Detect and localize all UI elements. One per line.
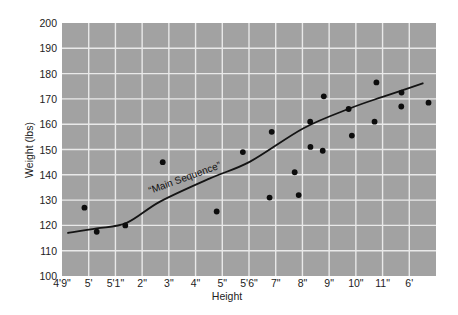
data-point [426,100,432,106]
data-point [240,149,246,155]
x-tick-label: 5'1" [107,277,125,289]
y-tick-label: 190 [39,42,57,54]
x-tick-label: 5" [217,277,227,289]
data-point [214,209,220,215]
x-tick-label: 10" [348,277,364,289]
data-point [374,80,380,86]
y-tick-label: 140 [39,169,57,181]
y-tick-label: 160 [39,118,57,130]
x-tick-label: 5'6" [240,277,258,289]
x-tick-label: 7" [271,277,281,289]
data-point [269,129,275,135]
y-tick-label: 200 [39,17,57,29]
x-tick-label: 4'9" [53,277,71,289]
data-point [372,119,378,125]
y-tick-label: 120 [39,219,57,231]
scatter-chart: 100110120130140150160170180190200 4'9"5'… [0,0,458,315]
data-point [308,144,314,150]
data-point [349,133,355,139]
x-axis-ticks: 4'9"5'5'1"2"3"4"5"5'6"7"8"9"10"11"6' [53,277,413,289]
data-point [320,148,326,154]
data-point [292,169,298,175]
y-tick-label: 110 [40,245,57,257]
x-tick-label: 11" [375,277,390,289]
x-tick-label: 9" [324,277,334,289]
data-point [346,106,352,112]
x-axis-label: Height [212,290,242,302]
data-point [94,229,100,235]
y-tick-label: 130 [39,194,57,206]
x-tick-label: 8" [298,277,308,289]
y-tick-label: 170 [39,93,57,105]
data-point [321,93,327,99]
data-point [160,159,166,165]
data-point [267,195,273,201]
x-tick-label: 3" [164,277,174,289]
data-point [307,119,313,125]
x-tick-label: 6' [405,277,413,289]
x-tick-label: 2" [137,277,147,289]
y-tick-label: 180 [39,68,57,80]
y-axis-ticks: 100110120130140150160170180190200 [39,17,57,282]
data-point [122,223,128,229]
y-tick-label: 150 [39,144,57,156]
data-point [82,205,88,211]
data-point [398,104,404,110]
y-axis-label: Weight (lbs) [23,122,35,178]
data-point [296,192,302,198]
x-tick-label: 5' [85,277,93,289]
data-point [399,90,405,96]
x-tick-label: 4" [191,277,201,289]
